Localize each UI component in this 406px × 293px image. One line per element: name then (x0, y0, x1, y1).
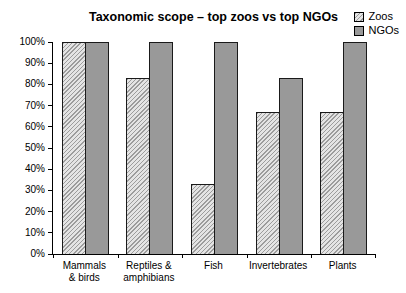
x-tick-mark-1 (118, 254, 119, 258)
bar-group-invertebrates (247, 42, 312, 254)
legend-label-ngos: NGOs (368, 24, 399, 37)
bar-group-mammals-birds (53, 42, 118, 254)
x-category-label-line: & birds (52, 272, 117, 284)
x-category-label-line: Fish (181, 260, 246, 272)
bar-group-fish (182, 42, 247, 254)
x-tick-mark-3 (247, 254, 248, 258)
x-category-label-line: Invertebrates (246, 260, 311, 272)
x-tick-mark-4 (311, 254, 312, 258)
x-category-label-line: Reptiles & (117, 260, 182, 272)
y-tick-label-30: 30% (25, 185, 45, 195)
chart-figure: Taxonomic scope – top zoos vs top NGOs Z… (0, 0, 406, 293)
legend-label-zoos: Zoos (368, 10, 392, 23)
plot-area: 0%10%20%30%40%50%60%70%80%90%100% (52, 42, 376, 255)
zoos-swatch-icon (354, 12, 364, 22)
y-tick-label-60: 60% (25, 122, 45, 132)
y-tick-label-70: 70% (25, 101, 45, 111)
chart-title: Taxonomic scope – top zoos vs top NGOs (52, 10, 375, 24)
bar-ngos-invertebrates (279, 78, 303, 254)
y-tick-label-50: 50% (25, 143, 45, 153)
x-category-label-reptiles-amphibians: Reptiles &amphibians (117, 260, 182, 283)
x-category-label-invertebrates: Invertebrates (246, 260, 311, 272)
y-tick-label-100: 100% (19, 37, 45, 47)
bar-zoos-invertebrates (256, 112, 280, 254)
bar-zoos-fish (191, 184, 215, 254)
legend: Zoos NGOs (354, 10, 399, 37)
y-tick-label-40: 40% (25, 164, 45, 174)
x-tick-mark-2 (182, 254, 183, 258)
y-tick-label-0: 0% (31, 249, 45, 259)
x-tick-mark-0 (53, 254, 54, 258)
bar-group-reptiles-amphibians (118, 42, 183, 254)
legend-item-ngos: NGOs (354, 24, 399, 37)
y-tick-label-80: 80% (25, 79, 45, 89)
bar-ngos-fish (214, 42, 238, 254)
x-axis-labels: Mammals& birdsReptiles &amphibiansFishIn… (52, 260, 375, 288)
bar-ngos-mammals-birds (85, 42, 109, 254)
y-tick-label-90: 90% (25, 58, 45, 68)
bar-ngos-reptiles-amphibians (149, 42, 173, 254)
bar-ngos-plants (343, 42, 367, 254)
x-category-label-plants: Plants (310, 260, 375, 272)
x-category-label-fish: Fish (181, 260, 246, 272)
x-category-label-line: amphibians (117, 272, 182, 284)
y-tick-label-20: 20% (25, 207, 45, 217)
legend-item-zoos: Zoos (354, 10, 399, 23)
y-tick-label-10: 10% (25, 228, 45, 238)
x-tick-mark-5 (375, 254, 376, 258)
bar-zoos-reptiles-amphibians (126, 78, 150, 254)
bar-zoos-mammals-birds (62, 42, 86, 254)
bar-zoos-plants (320, 112, 344, 254)
x-category-label-mammals-birds: Mammals& birds (52, 260, 117, 283)
x-category-label-line: Mammals (52, 260, 117, 272)
bar-group-plants (311, 42, 376, 254)
ngos-swatch-icon (354, 26, 364, 36)
x-category-label-line: Plants (310, 260, 375, 272)
